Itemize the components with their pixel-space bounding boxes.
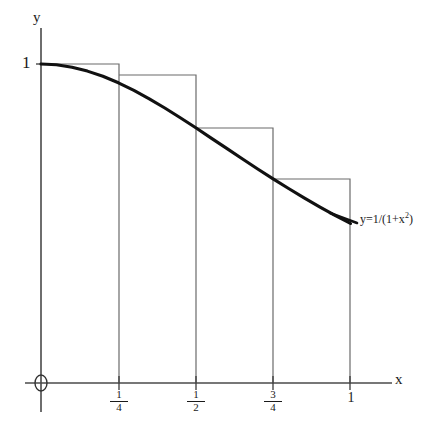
x-tick-label-three-quarters: 3 4 [264, 389, 282, 413]
fraction-numerator: 1 [187, 389, 205, 401]
fraction-numerator: 1 [110, 389, 128, 401]
y-tick-label-one: 1 [22, 54, 31, 71]
curve-equation-prefix: y=1/(1+x [360, 212, 405, 226]
x-tick-label-one: 1 [344, 391, 358, 405]
fraction-numerator: 3 [264, 389, 282, 401]
riemann-sum-figure: y x 1 1 4 1 2 3 4 1 y=1/(1+x2) [0, 0, 442, 431]
fraction-denominator: 4 [264, 401, 282, 414]
y-axis-label: y [33, 10, 41, 25]
rectangle-4 [273, 179, 350, 383]
riemann-rectangles [41, 64, 350, 383]
x-tick-label-one-quarter: 1 4 [110, 389, 128, 413]
x-axis-label: x [395, 372, 403, 387]
curve-equation-label: y=1/(1+x2) [360, 212, 413, 225]
x-tick-label-one-half: 1 2 [187, 389, 205, 413]
curve-equation-suffix: ) [409, 212, 413, 226]
fraction-denominator: 2 [187, 401, 205, 414]
fraction-denominator: 4 [110, 401, 128, 414]
rectangle-3 [196, 128, 273, 383]
rectangle-1 [41, 64, 119, 383]
